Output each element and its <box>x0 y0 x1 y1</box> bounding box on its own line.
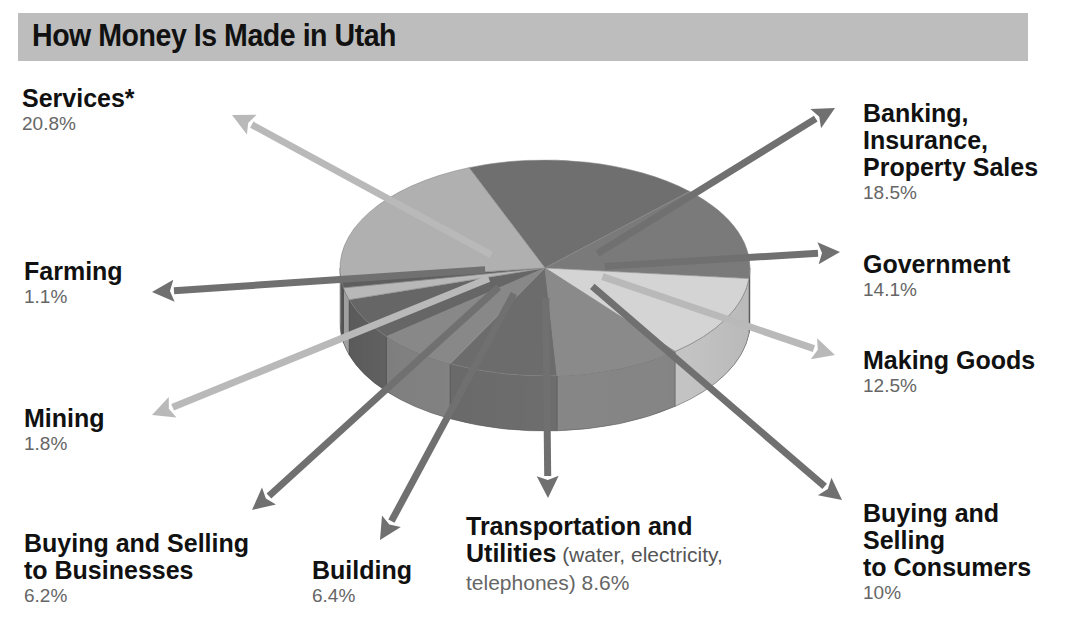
label-name: Building <box>312 557 412 584</box>
label-pct: 6.2% <box>24 584 249 608</box>
label-pct: 20.8% <box>22 112 135 136</box>
label-name: Mining <box>24 405 105 432</box>
label-name: Farming <box>24 258 123 285</box>
arrow-line <box>546 298 548 476</box>
label-name: Buying and Selling to Businesses <box>24 530 249 584</box>
label-name: Government <box>863 251 1010 278</box>
pie-side-segment <box>341 280 343 342</box>
label-pct: 6.4% <box>312 584 412 608</box>
label-building: Building 6.4% <box>312 557 412 608</box>
label-mining: Mining 1.8% <box>24 405 105 456</box>
arrow-head <box>537 476 559 498</box>
arrow-head <box>152 280 175 302</box>
label-services: Services* 20.8% <box>22 85 135 136</box>
label-businesses: Buying and Selling to Businesses 6.2% <box>24 530 249 608</box>
label-making-goods: Making Goods 12.5% <box>863 347 1035 398</box>
label-name: Banking, Insurance, Property Sales <box>863 100 1038 181</box>
label-farming: Farming 1.1% <box>24 258 123 309</box>
arrow-head <box>817 242 840 264</box>
label-pct: 1.1% <box>24 285 123 309</box>
label-pct: 10% <box>863 581 1031 605</box>
label-pct: 12.5% <box>863 374 1035 398</box>
label-pct: telephones) 8.6% <box>466 571 723 595</box>
label-pct: 14.1% <box>863 278 1010 302</box>
label-name: Buying and Selling to Consumers <box>863 500 1031 581</box>
label-government: Government 14.1% <box>863 251 1010 302</box>
label-pct: 18.5% <box>863 181 1038 205</box>
label-name: Services* <box>22 85 135 112</box>
arrow-head <box>811 338 835 359</box>
label-pct: 1.8% <box>24 432 105 456</box>
label-banking: Banking, Insurance, Property Sales 18.5% <box>863 100 1038 205</box>
label-note: (water, electricity, <box>556 543 722 566</box>
label-transport: Transportation and Utilities (water, ele… <box>466 513 723 595</box>
label-consumers: Buying and Selling to Consumers 10% <box>863 500 1031 605</box>
label-name: Making Goods <box>863 347 1035 374</box>
